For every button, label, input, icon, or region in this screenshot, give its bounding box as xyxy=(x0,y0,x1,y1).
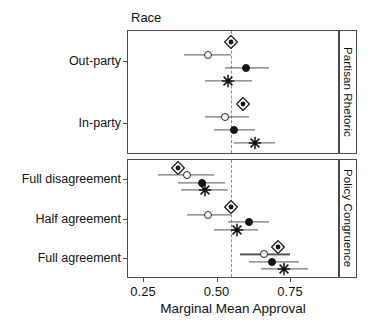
point-open-circle-0-1-1 xyxy=(221,113,229,121)
reference-line-0 xyxy=(231,31,232,153)
diamond-marker xyxy=(236,97,250,111)
point-filled-circle-0-1-2 xyxy=(230,126,238,134)
y-axis-label-0-0: Out-party xyxy=(69,54,121,68)
diamond-marker xyxy=(224,35,238,49)
x-tick-label-1: 0.50 xyxy=(204,284,229,299)
x-tick-1 xyxy=(217,278,218,282)
point-filled-circle-0-0-2 xyxy=(242,64,250,72)
point-diamond-0-0-0 xyxy=(224,35,238,49)
x-tick-0 xyxy=(143,278,144,282)
point-open-circle-1-2-1 xyxy=(260,250,268,258)
x-tick-label-2: 0.75 xyxy=(277,284,302,299)
open-circle-marker xyxy=(183,171,191,179)
point-star-1-2-3 xyxy=(277,262,291,276)
diamond-marker xyxy=(271,240,285,254)
star-marker xyxy=(221,74,235,88)
y-axis-label-1-1: Half agreement xyxy=(36,212,121,226)
filled-circle-marker xyxy=(242,64,250,72)
open-circle-marker xyxy=(204,51,212,59)
open-circle-marker xyxy=(221,113,229,121)
filled-circle-marker xyxy=(230,126,238,134)
point-star-0-1-3 xyxy=(248,136,262,150)
star-marker xyxy=(198,183,212,197)
point-filled-circle-1-1-2 xyxy=(245,218,253,226)
y-tick-1-1 xyxy=(123,219,127,220)
point-star-0-0-3 xyxy=(221,74,235,88)
y-tick-0-0 xyxy=(123,61,127,62)
plot-panel-0 xyxy=(127,30,339,154)
x-axis-title: Marginal Mean Approval xyxy=(160,301,306,316)
x-tick-label-0: 0.25 xyxy=(130,284,155,299)
reference-line-1 xyxy=(231,160,232,277)
point-diamond-1-1-0 xyxy=(224,200,238,214)
open-circle-marker xyxy=(260,250,268,258)
point-star-1-0-3 xyxy=(198,183,212,197)
point-diamond-1-2-0 xyxy=(271,240,285,254)
point-diamond-0-1-0 xyxy=(236,97,250,111)
point-star-1-1-3 xyxy=(230,223,244,237)
open-circle-marker xyxy=(204,211,212,219)
point-open-circle-1-0-1 xyxy=(183,171,191,179)
y-axis-label-1-2: Full agreement xyxy=(38,251,121,265)
star-marker xyxy=(277,262,291,276)
strip-text: Policy Congruence xyxy=(342,169,354,267)
y-tick-1-2 xyxy=(123,258,127,259)
point-open-circle-0-0-1 xyxy=(204,51,212,59)
filled-circle-marker xyxy=(245,218,253,226)
strip-text: Partisan Rhetoric xyxy=(342,47,354,137)
star-marker xyxy=(248,136,262,150)
forest-plot-figure: RacePartisan RhetoricOut-partyIn-partyPo… xyxy=(0,0,376,324)
y-axis-label-0-1: In-party xyxy=(79,116,121,130)
y-tick-1-0 xyxy=(123,179,127,180)
point-filled-circle-1-2-2 xyxy=(268,258,276,266)
plot-panel-1 xyxy=(127,159,339,278)
filled-circle-marker xyxy=(268,258,276,266)
point-open-circle-1-1-1 xyxy=(204,211,212,219)
strip-label-1: Policy Congruence xyxy=(339,159,357,278)
x-tick-2 xyxy=(290,278,291,282)
strip-label-0: Partisan Rhetoric xyxy=(339,30,357,154)
diamond-marker xyxy=(224,200,238,214)
y-axis-label-1-0: Full disagreement xyxy=(22,172,121,186)
y-tick-0-1 xyxy=(123,123,127,124)
facet-title: Race xyxy=(131,10,161,25)
star-marker xyxy=(230,223,244,237)
